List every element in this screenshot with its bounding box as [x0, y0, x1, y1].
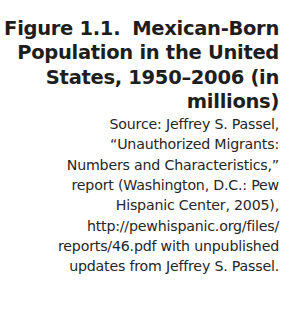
- figure-source: Source: Jeffrey S. Passel, “Unauthorized…: [0, 114, 279, 276]
- figure-caption: Figure 1.1.Mexican-Born Population in th…: [0, 17, 279, 277]
- figure-title-line-3: States, 1950–2006 (in: [0, 66, 279, 90]
- source-url-line-2: reports/46.pdf with unpublished: [0, 236, 279, 256]
- figure-title-line-4: millions): [0, 90, 279, 114]
- source-line-8: updates from Jeffrey S. Passel.: [0, 256, 279, 276]
- source-url-line-1: http://pewhispanic.org/files/: [0, 216, 279, 236]
- figure-title-line-1: Figure 1.1.Mexican-Born: [0, 17, 279, 41]
- source-line-2: “Unauthorized Migrants:: [0, 134, 279, 154]
- source-line-3: Numbers and Characteristics,”: [0, 155, 279, 175]
- figure-title-line-2: Population in the United: [0, 41, 279, 65]
- figure-number: Figure 1.1.: [4, 17, 120, 40]
- source-line-4: report (Washington, D.C.: Pew: [0, 175, 279, 195]
- source-line-5: Hispanic Center, 2005),: [0, 195, 279, 215]
- figure-title: Figure 1.1.Mexican-Born Population in th…: [0, 17, 279, 114]
- source-line-1: Source: Jeffrey S. Passel,: [0, 114, 279, 134]
- figure-title-text-1: Mexican-Born: [132, 17, 279, 40]
